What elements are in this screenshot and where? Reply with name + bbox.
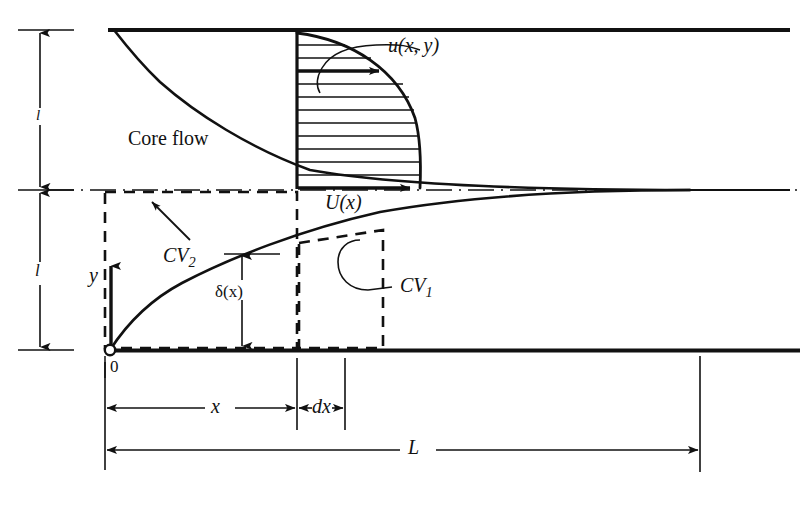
lower-boundary-layer-edge xyxy=(110,190,690,350)
dimension-extension-lines xyxy=(105,356,700,472)
half-height-upper-label: l xyxy=(36,108,40,123)
entrance-length-label: L xyxy=(408,437,419,457)
y-axis-label: y xyxy=(89,265,98,285)
velocity-profile-hatching xyxy=(298,45,420,175)
control-volume-2-box xyxy=(105,192,297,348)
dx-label: dx xyxy=(312,396,331,416)
figure-container: Core flow u(x, y) U(x) CV2 CV1 δ(x) y 0 … xyxy=(0,0,812,510)
x-distance-label: x xyxy=(211,396,220,416)
boundary-layer-thickness-label: δ(x) xyxy=(215,283,243,300)
core-flow-label: Core flow xyxy=(128,128,209,148)
cv1-label-text: CV xyxy=(400,274,426,296)
cv2-label-subscript: 2 xyxy=(189,254,196,270)
diagram-canvas xyxy=(0,0,812,510)
velocity-profile-label: u(x, y) xyxy=(388,35,439,55)
core-velocity-label: U(x) xyxy=(325,192,362,212)
cv1-label-subscript: 1 xyxy=(426,284,433,300)
cv1-label: CV1 xyxy=(400,275,433,299)
cv2-label-text: CV xyxy=(163,244,189,266)
cv2-pointer xyxy=(152,202,190,240)
vertical-dimensions xyxy=(18,30,74,350)
half-height-lower-label: l xyxy=(35,262,40,279)
origin-label: 0 xyxy=(110,358,119,375)
origin-marker xyxy=(105,345,115,355)
cv2-label: CV2 xyxy=(163,245,196,269)
